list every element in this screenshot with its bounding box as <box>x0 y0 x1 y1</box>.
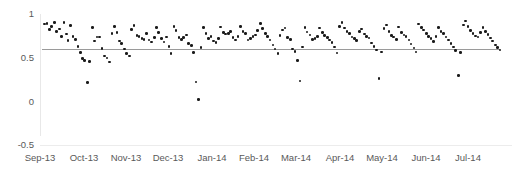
data-point <box>266 35 269 38</box>
data-point <box>447 39 450 42</box>
data-point <box>380 51 383 54</box>
data-point <box>93 40 96 43</box>
data-point <box>173 25 176 28</box>
data-point <box>205 32 208 35</box>
data-point <box>163 41 166 44</box>
data-point <box>123 48 126 51</box>
data-point <box>296 59 299 62</box>
data-point <box>67 39 70 42</box>
plot-area: 1 0.5 0 -0.5 Sep-13 Oct-13 Nov-13 Dec-13… <box>0 0 518 173</box>
data-point <box>77 45 80 48</box>
data-point <box>477 36 480 39</box>
data-point <box>170 52 173 55</box>
data-point <box>395 38 398 41</box>
data-point <box>237 35 240 38</box>
data-point <box>491 40 494 43</box>
data-point <box>254 34 257 37</box>
data-point <box>195 81 198 84</box>
data-point <box>388 30 391 33</box>
data-point <box>79 51 82 54</box>
data-point <box>355 39 358 42</box>
data-point <box>299 80 302 83</box>
data-point <box>259 22 262 25</box>
data-point <box>442 32 445 35</box>
data-point <box>219 26 222 29</box>
data-point <box>489 37 492 40</box>
data-point <box>333 46 336 49</box>
data-point <box>450 42 453 45</box>
data-point <box>417 23 420 26</box>
data-point <box>113 25 116 28</box>
data-point <box>306 31 309 34</box>
data-point <box>336 52 339 55</box>
data-point <box>217 37 220 40</box>
data-point <box>272 44 275 47</box>
data-point <box>120 42 123 45</box>
data-point <box>91 26 94 29</box>
data-point <box>457 74 460 77</box>
data-point <box>437 26 440 29</box>
data-point <box>197 98 200 101</box>
data-point <box>294 50 297 53</box>
data-points-layer <box>0 0 518 173</box>
data-point <box>309 34 312 37</box>
data-point <box>281 29 284 32</box>
data-point <box>454 49 457 52</box>
data-point <box>244 32 247 35</box>
data-point <box>360 28 363 31</box>
data-point <box>452 46 455 49</box>
data-point <box>368 37 371 40</box>
data-point <box>150 41 153 44</box>
data-point <box>256 29 259 32</box>
data-point <box>101 47 104 50</box>
data-point <box>58 28 61 31</box>
data-point <box>175 29 178 32</box>
data-point <box>413 47 416 50</box>
data-point <box>274 48 277 51</box>
data-point <box>261 27 264 30</box>
data-point <box>234 39 237 42</box>
data-point <box>435 35 438 38</box>
data-point <box>370 42 373 45</box>
data-point <box>464 20 467 23</box>
data-point <box>304 26 307 29</box>
data-point <box>165 36 168 39</box>
data-point <box>138 35 141 38</box>
data-point <box>408 39 411 42</box>
data-point <box>111 32 114 35</box>
data-point <box>53 21 56 24</box>
data-point <box>74 38 77 41</box>
data-point <box>301 46 304 49</box>
scatter-chart: 1 0.5 0 -0.5 Sep-13 Oct-13 Nov-13 Dec-13… <box>0 0 518 173</box>
data-point <box>341 21 344 24</box>
data-point <box>50 25 53 28</box>
data-point <box>63 21 66 24</box>
data-point <box>155 26 158 29</box>
data-point <box>373 45 376 48</box>
data-point <box>46 22 49 25</box>
data-point <box>128 55 131 58</box>
data-point <box>385 24 388 27</box>
data-point <box>462 24 465 27</box>
data-point <box>229 30 232 33</box>
data-point <box>269 39 272 42</box>
data-point <box>108 61 111 64</box>
data-point <box>432 40 435 43</box>
data-point <box>153 36 156 39</box>
data-point <box>143 38 146 41</box>
data-point <box>318 27 321 30</box>
data-point <box>277 52 280 55</box>
data-point <box>479 31 482 34</box>
data-point <box>190 44 193 47</box>
data-point <box>487 33 490 36</box>
data-point <box>415 51 418 54</box>
data-point <box>375 49 378 52</box>
data-point <box>160 37 163 40</box>
data-point <box>239 25 242 28</box>
data-point <box>202 26 205 29</box>
data-point <box>83 59 86 62</box>
data-point <box>60 35 63 38</box>
data-point <box>467 25 470 28</box>
data-point <box>55 30 58 33</box>
data-point <box>65 33 68 36</box>
